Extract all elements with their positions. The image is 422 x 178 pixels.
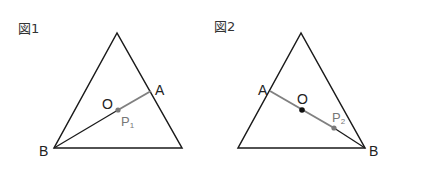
figure-2-label-p-sub: 2 — [341, 117, 346, 126]
diagram-canvas: 図1 O A B P1 図2 A O B P2 — [0, 0, 422, 178]
figure-2-segment-p2-b — [334, 128, 365, 148]
figure-2-label-p2: P2 — [332, 110, 346, 126]
figure-2-label-o: O — [297, 91, 308, 107]
figure-2: 図2 A O B P2 — [214, 19, 378, 159]
figure-1-segment-p1-a — [118, 91, 151, 110]
figure-1-point-p1 — [115, 107, 120, 112]
figure-1-label-b: B — [39, 143, 48, 159]
figure-2-title: 図2 — [214, 19, 235, 34]
figure-1-label-o: O — [102, 96, 113, 112]
figure-2-label-b: B — [369, 143, 378, 159]
figure-1-label-a: A — [155, 82, 165, 98]
figure-2-point-p2 — [331, 125, 336, 130]
figure-1-label-p-sub: 1 — [130, 121, 135, 130]
figure-1-label-p: P — [121, 114, 130, 129]
figure-1-label-p1: P1 — [121, 114, 135, 130]
figure-1-title: 図1 — [18, 21, 39, 36]
figure-2-point-o — [299, 107, 305, 113]
figure-2-label-a: A — [258, 82, 268, 98]
figure-2-label-p: P — [332, 110, 341, 125]
figure-1: 図1 O A B P1 — [18, 21, 182, 159]
